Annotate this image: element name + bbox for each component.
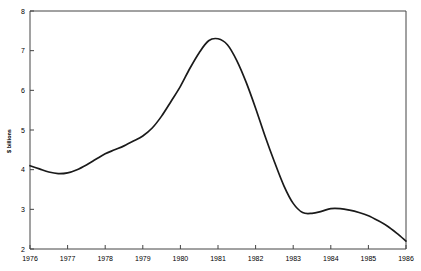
y-tick-label: 4	[21, 166, 25, 173]
x-tick-label: 1983	[285, 255, 301, 262]
x-tick-label: 1986	[398, 255, 414, 262]
data-series-line	[30, 38, 406, 241]
x-tick-label: 1984	[323, 255, 339, 262]
x-tick-label: 1985	[361, 255, 377, 262]
x-tick-label: 1982	[248, 255, 264, 262]
y-tick-label: 5	[21, 127, 25, 134]
y-axis-ticks	[30, 11, 34, 249]
y-tick-label: 3	[21, 206, 25, 213]
y-tick-label: 2	[21, 246, 25, 253]
x-axis-tick-labels: 1976197719781979198019811982198319841985…	[22, 255, 414, 262]
plot-frame	[30, 11, 406, 249]
x-tick-label: 1980	[173, 255, 189, 262]
x-tick-label: 1976	[22, 255, 38, 262]
x-tick-label: 1977	[60, 255, 76, 262]
y-tick-label: 6	[21, 87, 25, 94]
x-axis-ticks	[30, 245, 406, 249]
x-tick-label: 1978	[97, 255, 113, 262]
y-tick-label: 7	[21, 47, 25, 54]
y-tick-label: 8	[21, 8, 25, 15]
chart-canvas: 2345678 19761977197819791980198119821983…	[0, 0, 421, 271]
y-axis-title: $ billions	[6, 129, 12, 153]
y-axis-tick-labels: 2345678	[21, 8, 25, 253]
x-tick-label: 1981	[210, 255, 226, 262]
x-tick-label: 1979	[135, 255, 151, 262]
line-chart: 2345678 19761977197819791980198119821983…	[0, 0, 421, 271]
